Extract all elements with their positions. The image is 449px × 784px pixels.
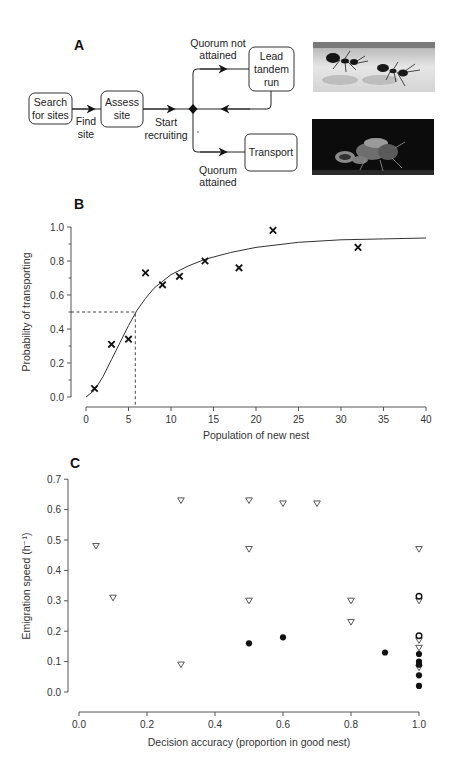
panel-b-x-axis-label: Population of new nest [203, 429, 309, 441]
threshold-guide-dashed [71, 312, 135, 407]
data-point-open-circle [416, 593, 422, 599]
panel-c-letter: C [70, 455, 80, 471]
panel-a: A Search for sites Assess site Lead tand… [29, 37, 435, 188]
data-point-x-marker [108, 341, 114, 347]
data-point-filled-circle [416, 651, 422, 657]
x-tick-label: 0.4 [208, 719, 222, 730]
data-point-open-triangle [246, 498, 253, 504]
data-point-filled-circle [382, 649, 388, 655]
panel-c-axes: 0.00.10.20.30.40.50.60.70.00.20.40.60.81… [47, 474, 426, 730]
data-point-open-triangle [416, 547, 423, 553]
fitted-curve [86, 238, 426, 397]
data-point-x-marker [176, 273, 182, 279]
svg-text:site: site [114, 109, 131, 121]
y-tick-label: 0.6 [50, 290, 64, 301]
panel-c: C 0.00.10.20.30.40.50.60.70.00.20.40.60.… [20, 455, 426, 748]
node-transport: Transport [245, 134, 297, 171]
node-assess-site: Assess site [101, 91, 143, 127]
y-tick-label: 0.2 [47, 626, 61, 637]
data-point-x-marker [142, 270, 148, 276]
edge-label-start-1: Start [155, 116, 177, 128]
x-tick-label: 0.2 [140, 719, 154, 730]
panel-c-y-axis-label: Emigration speed (h⁻¹) [20, 533, 32, 640]
data-point-filled-circle [246, 640, 252, 646]
y-tick-label: 0.1 [47, 656, 61, 667]
panel-c-x-axis-label: Decision accuracy (proportion in good ne… [148, 736, 351, 748]
y-tick-label: 0.4 [47, 565, 61, 576]
data-point-filled-circle [416, 662, 422, 668]
x-tick-label: 10 [165, 414, 177, 425]
svg-text:Assess: Assess [105, 96, 139, 108]
panel-b-y-axis-label: Probability of transporting [20, 252, 32, 371]
x-tick-label: 20 [250, 414, 262, 425]
transport-photo [312, 119, 434, 175]
edge-label-quorum-not-1: Quorum not [190, 37, 246, 49]
data-point-x-marker [125, 336, 131, 342]
data-point-open-triangle [178, 662, 185, 668]
data-point-filled-circle [280, 634, 286, 640]
svg-text:Search: Search [34, 96, 67, 108]
panel-b-letter: B [74, 196, 84, 212]
data-point-x-marker [270, 227, 276, 233]
x-tick-label: 35 [378, 414, 390, 425]
edge-label-quorum-1: Quorum [199, 164, 237, 176]
data-point-open-triangle [348, 598, 355, 604]
data-point-open-triangle [280, 501, 287, 507]
figure: A Search for sites Assess site Lead tand… [0, 0, 449, 784]
x-tick-label: 0.0 [72, 719, 86, 730]
node-lead-tandem-run: Lead tandem run [249, 47, 294, 91]
data-point-x-marker [236, 265, 242, 271]
panel-b-axes: 0.00.20.40.60.81.00510152025303540 [50, 222, 432, 426]
x-tick-label: 0 [83, 414, 89, 425]
data-point-filled-circle [416, 672, 422, 678]
x-tick-label: 30 [335, 414, 347, 425]
y-tick-label: 0.4 [50, 324, 64, 335]
tandem-run-photo [313, 42, 435, 92]
data-point-open-triangle [314, 501, 321, 507]
x-tick-label: 25 [293, 414, 305, 425]
svg-text:Transport: Transport [249, 146, 294, 158]
svg-text:Lead: Lead [260, 50, 284, 62]
data-point-open-triangle [93, 543, 100, 549]
data-point-open-triangle [416, 645, 423, 651]
edge-label-start-2: recruiting [144, 129, 187, 141]
data-point-open-triangle [246, 598, 253, 604]
y-tick-label: 0.8 [50, 256, 64, 267]
x-tick-label: 5 [126, 414, 132, 425]
y-tick-label: 0.2 [50, 358, 64, 369]
y-tick-label: 0.5 [47, 535, 61, 546]
edge-label-quorum-2: attained [199, 176, 237, 188]
data-point-x-marker [355, 244, 361, 250]
y-tick-label: 1.0 [50, 222, 64, 233]
data-point-x-marker [202, 258, 208, 264]
y-tick-label: 0.0 [47, 687, 61, 698]
panel-a-letter: A [74, 37, 84, 53]
panel-c-plot-area [93, 498, 423, 689]
y-tick-label: 0.0 [50, 392, 64, 403]
x-tick-label: 40 [420, 414, 432, 425]
panel-b: B 0.00.20.40.60.81.00510152025303540 Pro… [20, 196, 432, 441]
y-tick-label: 0.3 [47, 595, 61, 606]
y-tick-label: 0.7 [47, 474, 61, 485]
svg-text:for sites: for sites [32, 109, 69, 121]
data-point-filled-circle [416, 683, 422, 689]
node-search-for-sites: Search for sites [29, 93, 72, 124]
edge-label-find-site-2: site [78, 128, 95, 140]
y-tick-label: 0.6 [47, 504, 61, 515]
svg-text:run: run [264, 76, 279, 88]
data-point-open-triangle [110, 595, 117, 601]
x-tick-label: 1.0 [412, 719, 426, 730]
data-point-open-circle [416, 633, 422, 639]
x-tick-label: 0.8 [344, 719, 358, 730]
edge-label-quorum-not-2: attained [199, 49, 237, 61]
data-point-open-triangle [246, 547, 253, 553]
panel-b-plot-area [71, 227, 426, 407]
x-tick-label: 15 [208, 414, 220, 425]
svg-text:tandem: tandem [254, 63, 289, 75]
edge-label-find-site-1: Find [76, 115, 97, 127]
x-tick-label: 0.6 [276, 719, 290, 730]
data-point-open-triangle [348, 619, 355, 625]
data-point-open-triangle [178, 498, 185, 504]
data-point-x-marker [159, 282, 165, 288]
decision-diamond [189, 104, 198, 114]
